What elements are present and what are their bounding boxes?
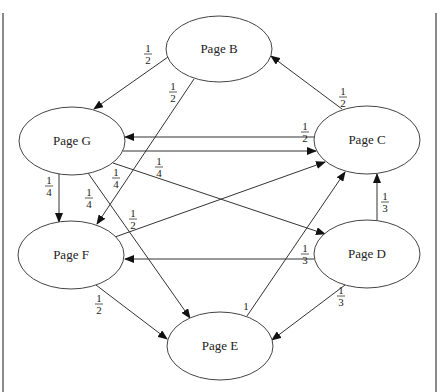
- diagram-canvas: Page BPage GPage CPage FPage DPage E 121…: [0, 0, 441, 392]
- weight-numerator: 1: [382, 190, 388, 202]
- weight-denominator: 4: [156, 167, 162, 179]
- weight-denominator: 3: [382, 202, 388, 214]
- edge-weight-label: 13: [381, 190, 389, 214]
- node-label: Page D: [348, 246, 386, 261]
- weight-numerator: 1: [86, 186, 92, 198]
- weight-denominator: 3: [302, 254, 308, 266]
- weight-numerator: 1: [156, 155, 162, 167]
- edge-c-to-b: [271, 56, 342, 109]
- weight-denominator: 2: [340, 97, 346, 109]
- node-page-d: Page D: [314, 220, 420, 288]
- edge-weight-label: 13: [301, 242, 309, 266]
- edge-f-to-c: [115, 162, 325, 237]
- node-page-g: Page G: [19, 107, 125, 175]
- edge-f-to-e: [96, 285, 167, 339]
- weight-numerator: 1: [302, 120, 308, 132]
- edge-weight-label: 14: [45, 174, 53, 198]
- weight-denominator: 2: [145, 54, 151, 66]
- edge-weight-label: 14: [155, 155, 163, 179]
- weight-numerator: 1: [96, 292, 102, 304]
- node-label: Page G: [53, 133, 91, 148]
- node-page-c: Page C: [314, 106, 420, 174]
- weight-denominator: 2: [130, 219, 136, 231]
- weight-denominator: 2: [302, 132, 308, 144]
- edge-weight-label: 14: [85, 186, 93, 210]
- weight-denominator: 4: [86, 198, 92, 210]
- node-page-b: Page B: [166, 16, 272, 82]
- weight-numerator: 1: [113, 166, 119, 178]
- frame-right-border: [435, 13, 437, 392]
- weight-value: 1: [243, 300, 249, 312]
- edge-weight-label: 1: [243, 300, 249, 312]
- edges-layer: [59, 56, 377, 340]
- node-label: Page F: [53, 247, 89, 262]
- edge-weight-label: 12: [144, 42, 152, 66]
- node-label: Page E: [202, 338, 239, 353]
- weight-denominator: 2: [96, 304, 102, 316]
- node-label: Page C: [348, 132, 385, 147]
- pagerank-graph: Page BPage GPage CPage FPage DPage E 121…: [0, 0, 441, 392]
- weight-numerator: 1: [46, 174, 52, 186]
- weight-numerator: 1: [302, 242, 308, 254]
- edge-weight-label: 12: [339, 85, 347, 109]
- edge-weight-label: 12: [129, 207, 137, 231]
- weight-numerator: 1: [145, 42, 151, 54]
- edge-weight-label: 12: [301, 120, 309, 144]
- edge-weight-label: 12: [169, 80, 177, 104]
- weight-numerator: 1: [170, 80, 176, 92]
- weight-denominator: 2: [170, 92, 176, 104]
- edge-weight-label: 14: [112, 166, 120, 190]
- weight-numerator: 1: [340, 85, 346, 97]
- node-label: Page B: [200, 41, 238, 56]
- weight-numerator: 1: [130, 207, 136, 219]
- edge-d-to-e: [272, 285, 345, 340]
- weight-denominator: 4: [113, 178, 119, 190]
- edge-weight-label: 13: [337, 284, 345, 308]
- node-page-e: Page E: [167, 312, 273, 380]
- weight-numerator: 1: [338, 284, 344, 296]
- weight-denominator: 3: [338, 296, 344, 308]
- weight-denominator: 4: [46, 186, 52, 198]
- edge-weight-label: 12: [95, 292, 103, 316]
- edge-b-to-g: [94, 57, 168, 109]
- node-page-f: Page F: [18, 221, 124, 289]
- frame-left-border: [2, 13, 4, 392]
